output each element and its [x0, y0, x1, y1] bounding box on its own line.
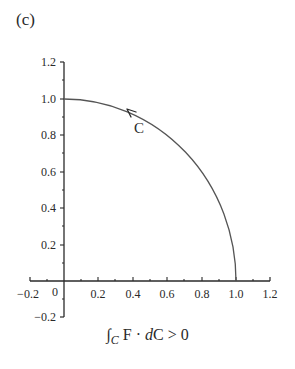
svg-text:0.6: 0.6: [41, 165, 56, 179]
svg-text:0.4: 0.4: [126, 287, 141, 301]
chart-plot: 1.2 1.0 0.8 0.6 0.4 0.2 −0.2 −0.2 0 0.2 …: [0, 0, 295, 369]
svg-text:1.2: 1.2: [41, 55, 56, 69]
svg-text:0.8: 0.8: [195, 287, 210, 301]
integral-subscript: C: [111, 333, 119, 347]
svg-text:1.0: 1.0: [229, 287, 244, 301]
caption-dot: ·: [132, 326, 145, 343]
svg-text:−0.2: −0.2: [34, 310, 56, 324]
caption: ∫C F · dC > 0: [0, 326, 295, 344]
caption-curve: C: [153, 326, 164, 343]
svg-text:−0.2: −0.2: [17, 287, 39, 301]
svg-text:0.2: 0.2: [41, 238, 56, 252]
svg-text:1.0: 1.0: [41, 92, 56, 106]
svg-text:0.2: 0.2: [91, 287, 106, 301]
curve-c: [64, 99, 236, 281]
caption-d: d: [145, 326, 153, 343]
curve-label: C: [134, 120, 144, 136]
caption-relation: > 0: [164, 326, 189, 343]
svg-text:0: 0: [52, 285, 58, 299]
svg-text:0.4: 0.4: [41, 201, 56, 215]
y-tick-labels: 1.2 1.0 0.8 0.6 0.4 0.2 −0.2: [34, 55, 56, 324]
svg-text:0.6: 0.6: [160, 287, 175, 301]
x-tick-labels: −0.2 0 0.2 0.4 0.6 0.8 1.0 1.2: [17, 285, 277, 301]
svg-text:0.8: 0.8: [41, 128, 56, 142]
caption-field: F: [123, 326, 132, 343]
svg-text:1.2: 1.2: [263, 287, 278, 301]
